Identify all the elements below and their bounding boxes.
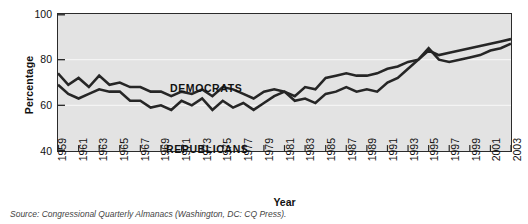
- x-tick-label: 1965: [119, 138, 130, 178]
- x-tick-label: 1993: [409, 138, 420, 178]
- x-tick-label: 2001: [491, 138, 502, 178]
- x-tick-label: 2003: [512, 138, 523, 178]
- x-tick-label: 1979: [264, 138, 275, 178]
- x-tick-label: 1977: [243, 138, 254, 178]
- chart-figure: Percentage 100 80 60 40 DEMOCRATS REPUBL…: [0, 0, 528, 224]
- x-tick-label: 1961: [78, 138, 89, 178]
- x-tick-label: 1985: [326, 138, 337, 178]
- source-note: Source: Congressional Quarterly Almanacs…: [10, 209, 286, 219]
- x-tick-label: 1973: [202, 138, 213, 178]
- x-tick-label: 1997: [450, 138, 461, 178]
- x-tick-label: 1991: [388, 138, 399, 178]
- x-tick-label: 1999: [471, 138, 482, 178]
- x-tick-label: 1959: [57, 138, 68, 178]
- x-tick-label: 1989: [367, 138, 378, 178]
- x-tick-label: 1981: [285, 138, 296, 178]
- x-axis-title: Year: [57, 196, 512, 208]
- x-tick-label: 1975: [222, 138, 233, 178]
- x-tick-label: 1971: [181, 138, 192, 178]
- x-tick-label: 1983: [305, 138, 316, 178]
- x-tick-label: 1963: [98, 138, 109, 178]
- x-tick-label: 1967: [140, 138, 151, 178]
- x-tick-label: 1987: [347, 138, 358, 178]
- x-tick-label: 1995: [429, 138, 440, 178]
- x-axis-tick-labels: 1959196119631965196719691971197319751977…: [0, 0, 528, 224]
- x-tick-label: 1969: [160, 138, 171, 178]
